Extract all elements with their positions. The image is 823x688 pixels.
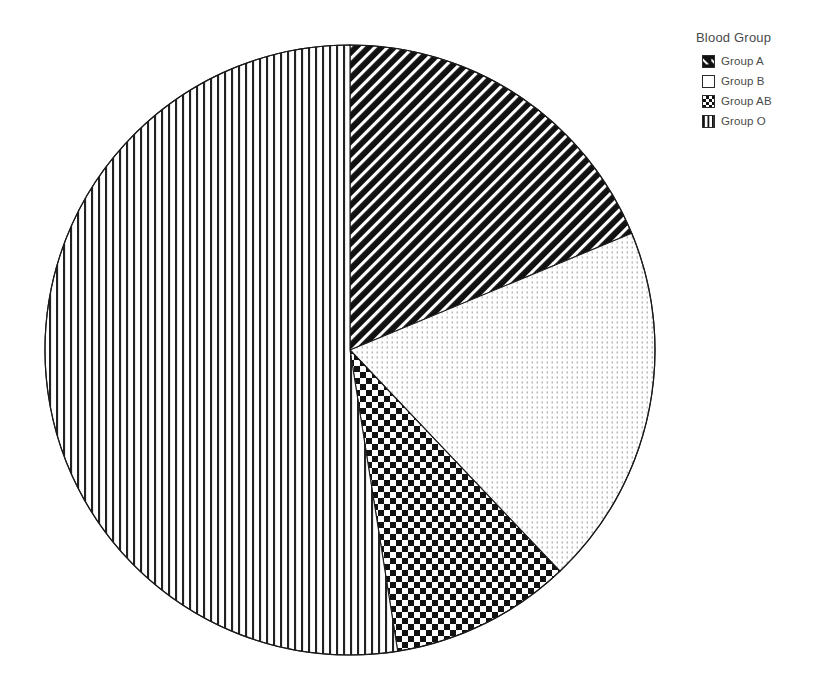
legend-item[interactable]: Group AB: [694, 91, 823, 111]
legend-item-label: Group A: [721, 55, 764, 68]
legend-item-label: Group O: [721, 115, 766, 128]
legend-swatch-diagonal-hatch-icon: [702, 55, 715, 68]
legend-swatch-light-dots-icon: [702, 75, 715, 88]
legend-item[interactable]: Group O: [694, 111, 823, 131]
legend-item-label: Group B: [721, 75, 765, 88]
chart-legend: Blood Group Group AGroup BGroup ABGroup …: [694, 30, 823, 131]
pie-slice-group-o[interactable]: Group O: 52.4%: [45, 45, 398, 655]
legend-swatch-checkerboard-icon: [702, 95, 715, 108]
legend-title: Blood Group: [694, 30, 823, 46]
legend-item-list: Group AGroup BGroup ABGroup O: [694, 51, 823, 131]
pie-chart-figure: Group A: 18.8%Group B: 19.2%Group AB: 9.…: [0, 0, 823, 688]
legend-swatch-vertical-lines-icon: [702, 115, 715, 128]
legend-item[interactable]: Group A: [694, 51, 823, 71]
legend-item[interactable]: Group B: [694, 71, 823, 91]
pie-slice-group: Group A: 18.8%Group B: 19.2%Group AB: 9.…: [45, 45, 655, 655]
legend-item-label: Group AB: [721, 95, 772, 108]
